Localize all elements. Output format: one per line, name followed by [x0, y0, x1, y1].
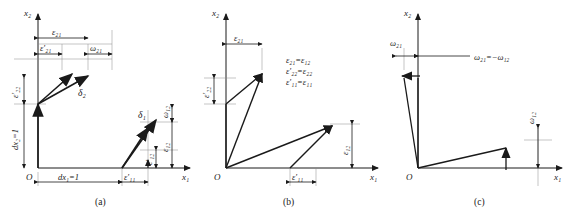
diagram-canvas: x₂ x₁ O ε₂₁ ε′₂₁ ω₂₁ ε′₂₂ dx₂=1 dx₁=1 ε′… — [0, 0, 574, 211]
panel-c-x-axis-label: x₁ — [553, 172, 561, 182]
panel-b-equation-1: ε₂₁=ε₁₂ — [286, 55, 310, 65]
panel-b-origin-label: O — [214, 172, 221, 182]
panel-b-label-eps21: ε₂₁ — [234, 33, 243, 43]
panel-a-caption: (a) — [95, 197, 106, 208]
panel-b-equation-2: ε′₂₂=ε₂₂ — [286, 66, 312, 76]
panel-a-label-delta2: δ₂ — [78, 88, 86, 98]
panel-a-label-dx1: dx₁=1 — [58, 172, 79, 182]
panel-c-equation-1: ω₂₁=−ω₁₂ — [474, 52, 509, 62]
panel-b-label-eps22-prime: ε′₂₂ — [201, 87, 211, 98]
panel-b — [204, 14, 378, 186]
panel-a-label-eps12: ε₁₂ — [160, 143, 170, 152]
panel-c-y-axis-label: x₂ — [403, 8, 411, 18]
panel-c-caption: (c) — [474, 197, 485, 208]
panel-a-label-eps12-prime: ε′₁₂ — [144, 154, 154, 165]
panel-a-label-eps11-prime: ε′₁₁ — [124, 172, 135, 182]
panel-a-label-omega21: ω₂₁ — [90, 43, 102, 53]
panel-b-label-eps11-prime: ε′₁₁ — [292, 172, 303, 182]
panel-b-y-axis-label: x₂ — [211, 8, 219, 18]
panel-b-equation-3: ε′₁₁=ε₁₁ — [286, 77, 312, 87]
panel-c-label-omega12: ω₁₂ — [526, 112, 536, 124]
figure-root: x₂ x₁ O ε₂₁ ε′₂₁ ω₂₁ ε′₂₂ dx₂=1 dx₁=1 ε′… — [0, 0, 574, 211]
panel-c-label-omega21: ω₂₁ — [390, 38, 402, 48]
panel-a-label-eps21: ε₂₁ — [52, 27, 61, 37]
panel-c-origin-label: O — [406, 172, 413, 182]
panel-a-label-eps22-prime: ε′₂₂ — [10, 87, 20, 98]
panel-a-label-omega12: ω₁₂ — [160, 106, 170, 118]
panel-a-origin-label: O — [26, 172, 33, 182]
panel-b-caption: (b) — [283, 197, 294, 208]
panel-b-right-vector — [290, 126, 332, 168]
panel-c — [396, 14, 562, 186]
panel-a-y-axis-label: x₂ — [23, 8, 31, 18]
panel-b-label-eps12: ε₁₂ — [340, 146, 350, 155]
panel-a-delta2-inner — [38, 74, 72, 104]
panel-a-label-dx2: dx₂=1 — [10, 129, 20, 150]
panel-a-label-delta1: δ₁ — [138, 110, 146, 120]
panel-c-rotated-horizontal — [418, 148, 506, 168]
panel-a-label-eps21-prime: ε′₂₁ — [40, 43, 51, 53]
panel-a — [14, 14, 190, 186]
panel-b-diagonal-1 — [226, 126, 332, 168]
panel-b-x-axis-label: x₁ — [369, 172, 377, 182]
panel-c-rotated-vertical — [404, 78, 418, 168]
panel-a-x-axis-label: x₁ — [181, 172, 189, 182]
